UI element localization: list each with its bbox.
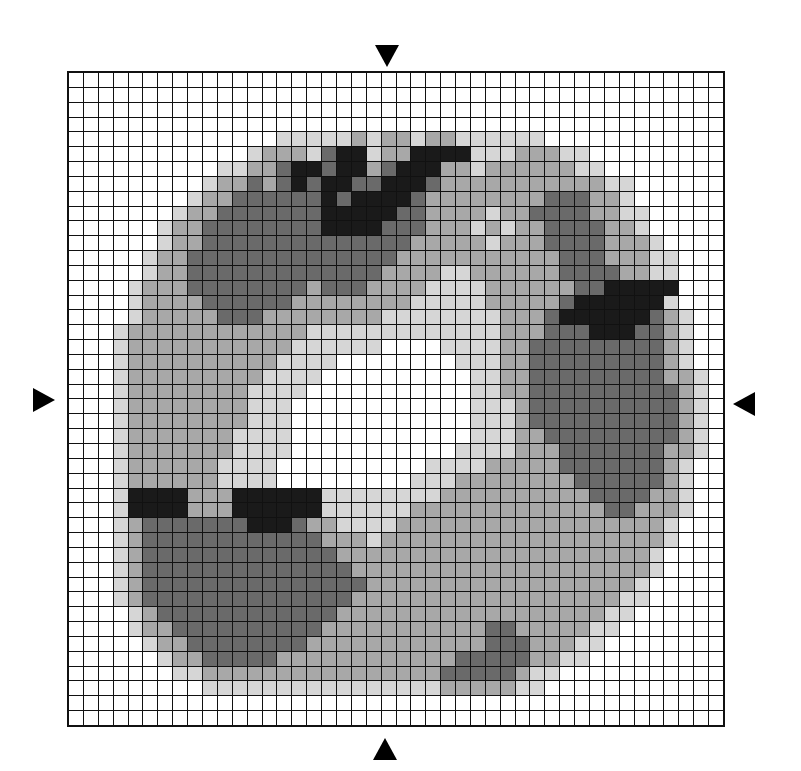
grid-cell	[575, 414, 589, 428]
grid-cell	[664, 578, 678, 592]
grid-cell	[501, 578, 515, 592]
grid-cell	[99, 592, 113, 606]
grid-cell	[679, 162, 693, 176]
grid-cell	[129, 236, 143, 250]
grid-cell	[516, 162, 530, 176]
grid-cell	[501, 503, 515, 517]
grid-cell	[69, 681, 83, 695]
grid-cell	[203, 474, 217, 488]
grid-cell	[486, 340, 500, 354]
grid-cell	[456, 88, 470, 102]
grid-cell	[501, 192, 515, 206]
grid-cell	[411, 414, 425, 428]
grid-cell	[307, 459, 321, 473]
grid-cell	[173, 281, 187, 295]
grid-cell	[367, 563, 381, 577]
grid-cell	[679, 118, 693, 132]
grid-cell	[263, 578, 277, 592]
grid-cell	[233, 637, 247, 651]
grid-cell	[397, 370, 411, 384]
grid-cell	[173, 548, 187, 562]
grid-cell	[307, 325, 321, 339]
grid-cell	[426, 667, 440, 681]
grid-cell	[99, 459, 113, 473]
grid-cell	[709, 355, 723, 369]
grid-cell	[292, 696, 306, 710]
grid-cell	[679, 533, 693, 547]
grid-cell	[352, 192, 366, 206]
grid-cell	[352, 696, 366, 710]
grid-cell	[411, 281, 425, 295]
grid-cell	[635, 607, 649, 621]
grid-cell	[516, 652, 530, 666]
grid-cell	[322, 652, 336, 666]
grid-cell	[471, 266, 485, 280]
grid-cell	[158, 399, 172, 413]
grid-cell	[69, 518, 83, 532]
grid-cell	[471, 652, 485, 666]
grid-cell	[84, 637, 98, 651]
grid-cell	[233, 607, 247, 621]
grid-cell	[382, 325, 396, 339]
grid-cell	[382, 310, 396, 324]
grid-cell	[263, 355, 277, 369]
grid-cell	[456, 118, 470, 132]
grid-cell	[694, 296, 708, 310]
grid-cell	[84, 251, 98, 265]
grid-cell	[411, 177, 425, 191]
grid-cell	[530, 118, 544, 132]
grid-cell	[173, 207, 187, 221]
grid-cell	[129, 162, 143, 176]
grid-cell	[129, 503, 143, 517]
grid-cell	[158, 355, 172, 369]
grid-cell	[560, 459, 574, 473]
grid-cell	[99, 340, 113, 354]
grid-cell	[679, 637, 693, 651]
grid-cell	[545, 132, 559, 146]
grid-cell	[263, 592, 277, 606]
grid-cell	[248, 162, 262, 176]
grid-cell	[545, 310, 559, 324]
grid-cell	[382, 192, 396, 206]
grid-cell	[382, 162, 396, 176]
grid-cell	[426, 281, 440, 295]
grid-cell	[307, 88, 321, 102]
grid-cell	[292, 370, 306, 384]
grid-cell	[143, 281, 157, 295]
grid-cell	[635, 459, 649, 473]
grid-cell	[620, 414, 634, 428]
grid-cell	[69, 266, 83, 280]
grid-cell	[456, 489, 470, 503]
grid-cell	[307, 563, 321, 577]
grid-cell	[411, 221, 425, 235]
grid-cell	[307, 207, 321, 221]
grid-cell	[277, 207, 291, 221]
grid-cell	[516, 563, 530, 577]
grid-cell	[248, 667, 262, 681]
grid-cell	[575, 118, 589, 132]
grid-cell	[411, 73, 425, 87]
grid-cell	[635, 88, 649, 102]
grid-cell	[292, 592, 306, 606]
grid-cell	[471, 207, 485, 221]
grid-cell	[173, 103, 187, 117]
grid-cell	[545, 73, 559, 87]
grid-cell	[277, 444, 291, 458]
grid-cell	[679, 88, 693, 102]
grid-cell	[560, 103, 574, 117]
grid-cell	[307, 399, 321, 413]
grid-cell	[426, 548, 440, 562]
grid-cell	[114, 489, 128, 503]
grid-cell	[248, 207, 262, 221]
grid-cell	[709, 340, 723, 354]
grid-cell	[516, 681, 530, 695]
grid-cell	[114, 325, 128, 339]
grid-cell	[218, 162, 232, 176]
grid-cell	[620, 385, 634, 399]
grid-cell	[114, 266, 128, 280]
grid-cell	[635, 340, 649, 354]
grid-cell	[143, 563, 157, 577]
grid-cell	[292, 607, 306, 621]
grid-cell	[367, 88, 381, 102]
grid-cell	[218, 103, 232, 117]
